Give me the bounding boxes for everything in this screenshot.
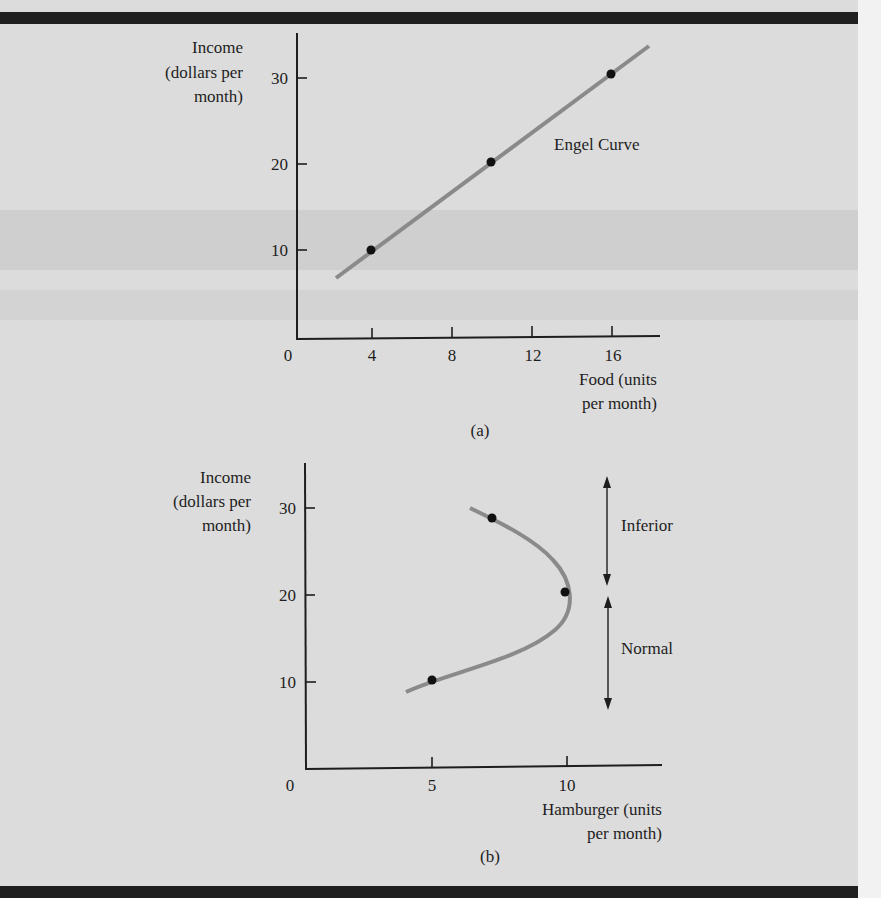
y-tick-label: 10 xyxy=(271,241,288,260)
y-tick-label: 20 xyxy=(279,586,296,605)
inferior-range-arrow xyxy=(603,476,611,586)
data-point xyxy=(367,246,376,255)
x-axis-label-line1: Food (units xyxy=(579,370,657,389)
normal-range-arrow xyxy=(604,596,612,710)
y-axis-label-line1: Income xyxy=(192,38,243,57)
data-point xyxy=(607,70,616,79)
panel-label-b: (b) xyxy=(480,847,500,866)
arrow-up-icon xyxy=(604,596,612,608)
data-point xyxy=(561,588,570,597)
origin-label: 0 xyxy=(284,346,293,365)
x-tick-label: 12 xyxy=(525,346,542,365)
data-point xyxy=(487,158,496,167)
x-axis-label-line1: Hamburger (units xyxy=(542,800,662,819)
origin-label: 0 xyxy=(286,776,295,795)
normal-label: Normal xyxy=(621,639,673,658)
panel-b: Inferior Normal Income (dollars per mont… xyxy=(173,463,673,866)
data-point xyxy=(488,514,497,523)
x-tick-label: 5 xyxy=(428,776,437,795)
panel-label-a: (a) xyxy=(471,421,490,440)
x-axis-label-line2: per month) xyxy=(587,824,662,843)
y-axis-label-line2: (dollars per xyxy=(165,63,243,82)
x-axis xyxy=(305,765,662,769)
panel-a: Income (dollars per month) 30 20 10 0 4 … xyxy=(165,33,660,440)
inferior-label: Inferior xyxy=(621,516,673,535)
data-point xyxy=(428,676,437,685)
y-tick-label: 30 xyxy=(279,499,296,518)
x-tick-label: 8 xyxy=(448,346,457,365)
engel-curve-hamburger xyxy=(406,508,570,692)
x-axis xyxy=(297,336,660,339)
y-tick-label: 10 xyxy=(279,673,296,692)
x-tick-label: 16 xyxy=(605,346,622,365)
y-axis-label-line2: (dollars per xyxy=(173,492,251,511)
x-tick-label: 10 xyxy=(559,776,576,795)
arrow-up-icon xyxy=(603,476,611,488)
y-tick-label: 20 xyxy=(271,155,288,174)
y-axis-label-line3: month) xyxy=(202,516,251,535)
arrow-down-icon xyxy=(604,698,612,710)
engel-curves-figure: Income (dollars per month) 30 20 10 0 4 … xyxy=(0,0,881,898)
figure-page: Income (dollars per month) 30 20 10 0 4 … xyxy=(0,0,881,898)
y-axis-label-line3: month) xyxy=(194,87,243,106)
y-axis xyxy=(305,463,306,770)
x-axis-label-line2: per month) xyxy=(582,394,657,413)
engel-curve-label: Engel Curve xyxy=(554,135,639,154)
x-tick-label: 4 xyxy=(368,346,377,365)
arrow-down-icon xyxy=(603,574,611,586)
y-axis-label-line1: Income xyxy=(200,468,251,487)
y-tick-label: 30 xyxy=(271,69,288,88)
